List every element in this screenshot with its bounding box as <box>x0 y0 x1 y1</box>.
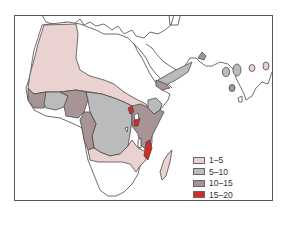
zone-5-10-india <box>233 64 241 76</box>
zone-10-15-iran <box>198 52 206 60</box>
zone-5-10-arabia <box>158 62 192 86</box>
zone-10-15-india-south <box>229 85 235 92</box>
arabian-coast-piece <box>169 15 180 25</box>
legend-swatch-1-5 <box>193 157 205 164</box>
sri-lanka <box>238 96 242 102</box>
zone-1-5-burma <box>263 62 269 70</box>
zone-1-5-bangladesh <box>249 65 255 72</box>
legend-label: 10–15 <box>209 178 233 188</box>
legend-label: 5–10 <box>209 167 228 177</box>
zone-5-10-pakistan <box>223 68 230 77</box>
legend-label: 1–5 <box>209 155 223 165</box>
legend-item: 10–15 <box>193 178 233 188</box>
map-canvas <box>0 0 288 225</box>
legend-item: 5–10 <box>193 167 233 177</box>
legend-label: 15–20 <box>209 190 233 200</box>
legend-swatch-10-15 <box>193 180 205 187</box>
legend-swatch-5-10 <box>193 168 205 175</box>
legend-swatch-15-20 <box>193 191 205 198</box>
legend-item: 15–20 <box>193 190 233 200</box>
lake-malawi <box>138 138 141 148</box>
legend-item: 1–5 <box>193 155 233 165</box>
legend: 1–5 5–10 10–15 15–20 <box>193 155 233 201</box>
madagascar <box>160 150 172 180</box>
